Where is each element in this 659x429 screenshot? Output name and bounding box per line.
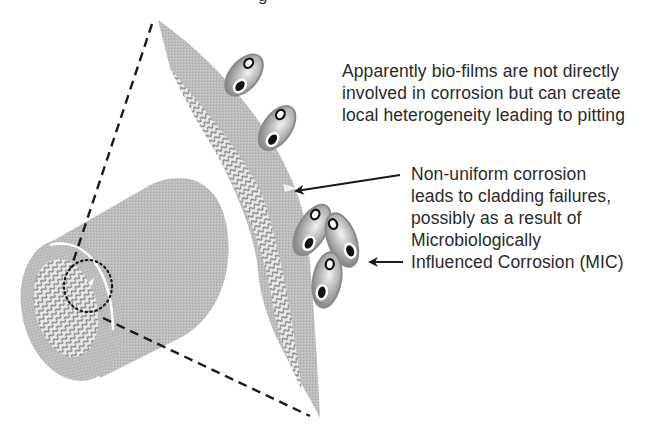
cladding-tube [6,178,228,392]
annotation-line: involved in corrosion but can create [342,82,625,104]
biofilm-annotation: Apparently bio-films are not directly in… [342,60,625,126]
cell-nucleus [316,285,328,301]
annotation-line: Microbiologically [411,229,624,251]
annotation-line: Influenced Corrosion (MIC) [411,251,624,273]
annotation-line: possibly as a result of [411,207,624,229]
cell-nucleus [325,259,335,270]
annotation-line: Non-uniform corrosion [411,163,624,185]
corrosion-annotation: Non-uniform corrosion leads to cladding … [411,163,624,273]
annotation-line: leads to cladding failures, [411,185,624,207]
annotation-line: Apparently bio-films are not directly [342,60,625,82]
annotation-line: local heterogeneity leading to pitting [342,104,625,126]
clipped-title-fragment: g [258,0,267,6]
arrow-to-corrosion-spot [296,175,400,191]
